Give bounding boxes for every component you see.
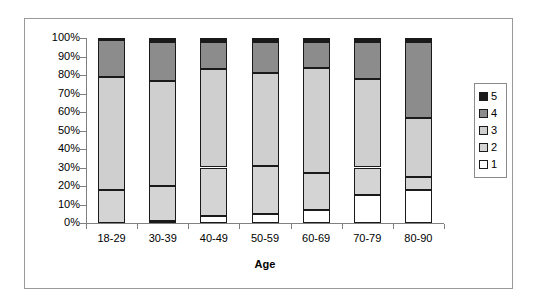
bar-segment-60-69-3[interactable]: [303, 68, 330, 173]
bar-segment-50-59-3[interactable]: [252, 73, 279, 166]
bar-segment-70-79-2[interactable]: [354, 168, 381, 196]
bar-segment-50-59-2[interactable]: [252, 166, 279, 214]
x-axis-line: [86, 223, 444, 224]
bar-segment-80-90-2[interactable]: [405, 177, 432, 190]
x-axis-tick-label-50-59: 50-59: [238, 232, 292, 244]
bar-segment-18-29-4[interactable]: [98, 40, 125, 77]
x-axis-tick-label-80-90: 80-90: [391, 232, 445, 244]
x-axis-tick: [291, 224, 292, 229]
y-axis-tick-label: 70%: [34, 88, 80, 99]
legend-swatch-icon: [479, 126, 488, 135]
bar-segment-18-29-2[interactable]: [98, 190, 125, 223]
bar-segment-70-79-1[interactable]: [354, 195, 381, 223]
y-axis-tick-label: 10%: [34, 199, 80, 210]
legend-label: 5: [491, 91, 497, 102]
bar-segment-50-59-1[interactable]: [252, 214, 279, 223]
legend-swatch-icon: [479, 92, 488, 101]
y-axis-tick-label: 100%: [34, 32, 80, 43]
bar-segment-30-39-4[interactable]: [149, 42, 176, 81]
x-axis-tick-label-70-79: 70-79: [340, 232, 394, 244]
legend-item-4[interactable]: 4: [479, 105, 503, 122]
x-axis-title: Age: [86, 258, 444, 270]
bar-segment-80-90-5[interactable]: [405, 38, 432, 42]
bar-80-90[interactable]: [405, 38, 432, 223]
bar-30-39[interactable]: [149, 38, 176, 223]
x-axis-tick: [188, 224, 189, 229]
bar-segment-70-79-5[interactable]: [354, 38, 381, 42]
legend-label: 4: [491, 108, 497, 119]
bar-segment-30-39-3[interactable]: [149, 81, 176, 186]
legend-label: 1: [491, 159, 497, 170]
bar-segment-60-69-1[interactable]: [303, 210, 330, 223]
bar-segment-40-49-3[interactable]: [200, 69, 227, 167]
bar-segment-80-90-1[interactable]: [405, 190, 432, 223]
plot-area: [86, 38, 436, 223]
bar-70-79[interactable]: [354, 38, 381, 223]
y-axis-labels: 100%90%80%70%60%50%40%30%20%10%0%: [26, 0, 80, 306]
y-axis-tick-label: 30%: [34, 162, 80, 173]
y-axis-tick-label: 0%: [34, 217, 80, 228]
y-axis-tick-label: 20%: [34, 180, 80, 191]
legend-swatch-icon: [479, 143, 488, 152]
x-axis-tick: [342, 224, 343, 229]
bar-segment-18-29-3[interactable]: [98, 77, 125, 190]
bar-segment-70-79-3[interactable]: [354, 79, 381, 168]
legend-swatch-icon: [479, 160, 488, 169]
bar-60-69[interactable]: [303, 38, 330, 223]
x-axis-tick-label-30-39: 30-39: [136, 232, 190, 244]
y-axis-tick-label: 80%: [34, 69, 80, 80]
bar-segment-50-59-4[interactable]: [252, 42, 279, 73]
chart-legend: 54321: [474, 83, 507, 178]
y-axis-tick-label: 60%: [34, 106, 80, 117]
legend-item-2[interactable]: 2: [479, 139, 503, 156]
x-axis-tick: [239, 224, 240, 229]
bar-segment-60-69-5[interactable]: [303, 38, 330, 42]
bar-segment-30-39-1[interactable]: [149, 221, 176, 223]
x-axis-tick-label-60-69: 60-69: [289, 232, 343, 244]
y-axis-tick-label: 40%: [34, 143, 80, 154]
bar-segment-18-29-5[interactable]: [98, 38, 125, 40]
bar-segment-60-69-4[interactable]: [303, 42, 330, 68]
bar-segment-80-90-3[interactable]: [405, 118, 432, 177]
x-axis-tick: [137, 224, 138, 229]
bar-segment-40-49-4[interactable]: [200, 42, 227, 70]
bar-40-49[interactable]: [200, 38, 227, 223]
bar-segment-80-90-4[interactable]: [405, 42, 432, 118]
bar-segment-30-39-5[interactable]: [149, 38, 176, 42]
bar-50-59[interactable]: [252, 38, 279, 223]
legend-swatch-icon: [479, 109, 488, 118]
bar-18-29[interactable]: [98, 38, 125, 223]
legend-label: 2: [491, 142, 497, 153]
bar-segment-30-39-2[interactable]: [149, 186, 176, 221]
legend-item-5[interactable]: 5: [479, 88, 503, 105]
y-axis-tick-label: 90%: [34, 51, 80, 62]
y-axis-tick-label: 50%: [34, 125, 80, 136]
bar-segment-40-49-1[interactable]: [200, 216, 227, 223]
bar-segment-50-59-5[interactable]: [252, 38, 279, 42]
legend-item-1[interactable]: 1: [479, 156, 503, 173]
x-axis-tick: [86, 224, 87, 229]
legend-label: 3: [491, 125, 497, 136]
x-axis-tick: [393, 224, 394, 229]
bar-segment-40-49-5[interactable]: [200, 38, 227, 42]
bar-segment-40-49-2[interactable]: [200, 168, 227, 216]
chart-container: 100%90%80%70%60%50%40%30%20%10%0% 18-293…: [0, 0, 537, 306]
legend-item-3[interactable]: 3: [479, 122, 503, 139]
x-axis-tick-label-40-49: 40-49: [187, 232, 241, 244]
x-axis-tick-label-18-29: 18-29: [85, 232, 139, 244]
bar-segment-70-79-4[interactable]: [354, 42, 381, 79]
bar-segment-60-69-2[interactable]: [303, 173, 330, 210]
x-axis-tick: [444, 224, 445, 229]
